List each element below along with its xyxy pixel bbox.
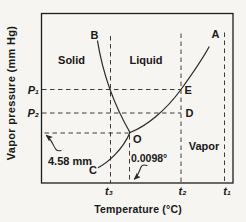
sublimation-curve-C-O bbox=[99, 133, 131, 168]
y-axis-label: Vapor pressure (mm Hg) bbox=[5, 26, 17, 160]
point-label-e: E bbox=[185, 84, 192, 96]
temperature-tick-t1: t₁ bbox=[223, 185, 231, 197]
triple-point-pressure-arrow bbox=[47, 136, 62, 151]
pressure-tick-p1: P₁ bbox=[28, 84, 39, 96]
point-label-b: B bbox=[91, 29, 99, 41]
x-axis-label: Temperature (°C) bbox=[94, 203, 182, 215]
annotation-triple-point-pressure: 4.58 mm bbox=[48, 155, 92, 167]
region-label-vapor: Vapor bbox=[189, 140, 220, 152]
point-label-o: O bbox=[133, 133, 142, 145]
fusion-curve-B-O bbox=[98, 41, 131, 133]
point-label-a: A bbox=[212, 28, 220, 40]
phase-diagram-svg: Solid Liquid Vapor B A C O E D P₁ P₂ t₃ … bbox=[0, 0, 246, 222]
pressure-tick-p2: P₂ bbox=[27, 107, 39, 119]
temperature-tick-t3: t₃ bbox=[105, 185, 113, 197]
temperature-tick-t2: t₂ bbox=[179, 185, 187, 197]
annotation-triple-point-temperature: 0.0098° bbox=[131, 152, 167, 164]
region-label-liquid: Liquid bbox=[130, 54, 163, 66]
triple-point-temperature-arrow bbox=[135, 165, 148, 179]
region-label-solid: Solid bbox=[58, 54, 85, 66]
point-label-d: D bbox=[186, 107, 194, 119]
phase-diagram-figure: Solid Liquid Vapor B A C O E D P₁ P₂ t₃ … bbox=[0, 0, 246, 222]
